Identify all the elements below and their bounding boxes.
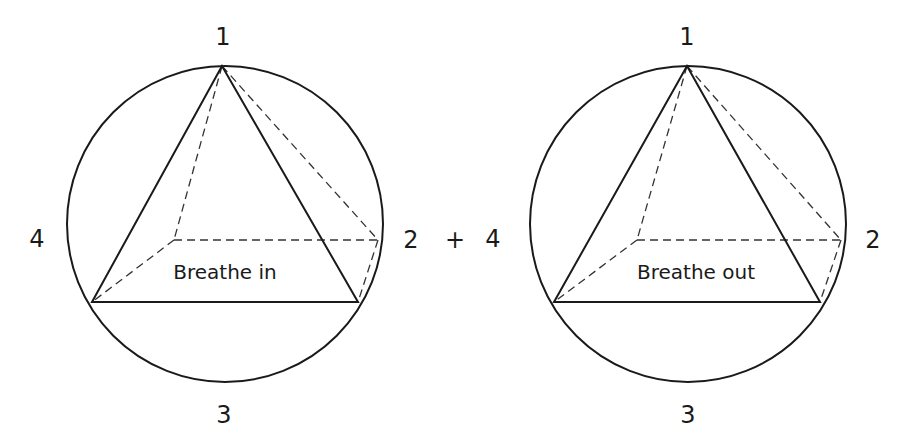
hidden-edge-back-to-left	[92, 240, 174, 302]
vertex-label-3: 3	[680, 401, 695, 429]
breathing-pyramid-diagram: Breathe in 1 2 3 4 + Breathe out 1 2 3 4	[0, 0, 904, 445]
vertex-label-1: 1	[215, 23, 230, 51]
vertex-label-3: 3	[216, 401, 231, 429]
figure-breathe-in: Breathe in 1 2 3 4	[29, 23, 418, 429]
figure-breathe-out: Breathe out 1 2 3 4	[485, 23, 880, 429]
plus-operator: +	[445, 226, 465, 254]
vertex-label-2: 2	[865, 226, 880, 254]
hidden-edge-apex-to-right	[687, 66, 841, 240]
hidden-edge-apex-to-back	[174, 66, 222, 240]
caption-breathe-out: Breathe out	[637, 260, 755, 284]
outer-circle	[67, 66, 383, 382]
vertex-label-4: 4	[29, 225, 44, 253]
vertex-label-1: 1	[679, 23, 694, 51]
vertex-label-4: 4	[485, 225, 500, 253]
outer-circle	[530, 66, 846, 382]
caption-breathe-in: Breathe in	[173, 260, 276, 284]
hidden-edge-apex-to-back	[637, 66, 687, 240]
vertex-label-2: 2	[403, 226, 418, 254]
hidden-edge-back-to-left	[554, 240, 637, 302]
hidden-edge-apex-to-right	[222, 66, 378, 240]
